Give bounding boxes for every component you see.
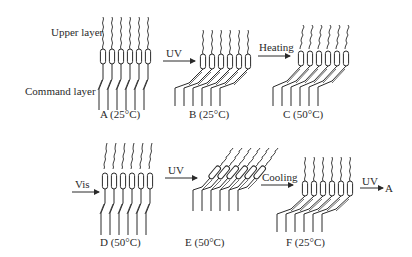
panel-d xyxy=(100,143,153,235)
panel-c xyxy=(273,25,349,106)
transition-bc-label: Heating xyxy=(259,41,294,53)
panel-a xyxy=(98,17,151,110)
upper-layer-label: Upper layer xyxy=(51,26,103,38)
state-f-caption: F (25°C) xyxy=(286,236,325,248)
state-d-caption: D (50°C) xyxy=(100,236,141,248)
state-e-caption: E (50°C) xyxy=(185,236,225,248)
panel-b xyxy=(175,30,251,106)
command-layer-label: Command layer xyxy=(25,85,96,97)
transition-fa-label: UV xyxy=(362,175,378,187)
molecule-drawing xyxy=(0,0,412,257)
diagram-canvas: Upper layer Command layer A (25°C) B (25… xyxy=(0,0,412,257)
transition-fa-target: A xyxy=(385,182,393,194)
state-a-caption: A (25°C) xyxy=(100,108,140,120)
transition-cd-label: Vis xyxy=(75,178,90,190)
transition-de-label: UV xyxy=(168,164,184,176)
transition-ab-label: UV xyxy=(166,47,182,59)
panel-f xyxy=(277,157,353,232)
state-c-caption: C (50°C) xyxy=(283,108,323,120)
transition-ef-label: Cooling xyxy=(262,171,297,183)
state-b-caption: B (25°C) xyxy=(189,108,229,120)
